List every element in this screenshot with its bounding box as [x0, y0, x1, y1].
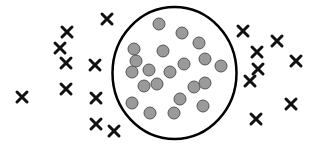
inside-dot [176, 27, 188, 39]
outside-cross-mark [272, 36, 282, 46]
outside-cross-mark [62, 27, 72, 37]
outside-cross-mark [17, 92, 27, 102]
inside-dot [138, 80, 150, 92]
inside-dot [199, 77, 211, 89]
outside-cross-mark [91, 119, 101, 129]
outside-cross-mark [90, 60, 100, 70]
outside-cross-mark [61, 84, 71, 94]
inside-dot [126, 66, 138, 78]
inside-dot [215, 60, 227, 72]
inside-dot [144, 107, 156, 119]
inside-dot [151, 78, 163, 90]
inside-dot [174, 93, 186, 105]
inside-dot [143, 64, 155, 76]
diagram-canvas [0, 0, 317, 146]
inside-dot [168, 107, 180, 119]
outside-cross-mark [91, 93, 101, 103]
outside-crosses-group [17, 14, 301, 136]
outside-cross-mark [245, 76, 255, 86]
inside-dot [157, 45, 169, 57]
inside-dot [130, 55, 142, 67]
outside-cross-mark [286, 99, 296, 109]
outside-cross-mark [109, 126, 119, 136]
inside-dot [153, 18, 165, 30]
inside-dot [164, 66, 176, 78]
outside-cross-mark [253, 64, 263, 74]
outside-cross-mark [291, 56, 301, 66]
outside-cross-mark [55, 43, 65, 53]
inside-dot [199, 53, 211, 65]
outside-cross-mark [238, 26, 248, 36]
inside-dots-group [126, 18, 227, 119]
inside-dot [188, 81, 200, 93]
outside-cross-mark [61, 58, 71, 68]
outside-cross-mark [102, 14, 112, 24]
inside-dot [126, 97, 138, 109]
outside-cross-mark [251, 114, 261, 124]
inside-dot [197, 100, 209, 112]
outside-cross-mark [252, 47, 262, 57]
inside-dot [128, 43, 140, 55]
inside-dot [193, 37, 205, 49]
inside-dot [178, 58, 190, 70]
